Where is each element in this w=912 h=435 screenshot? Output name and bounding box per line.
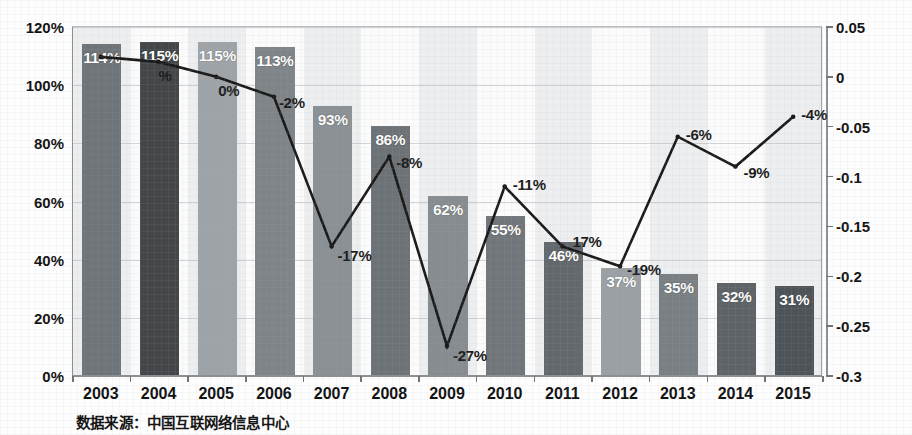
left-axis-tick-label: 0%	[42, 368, 64, 385]
right-axis-tick	[826, 176, 833, 178]
line-value-label-2005: 0%	[218, 82, 239, 99]
line-value-label-2014: -9%	[743, 164, 769, 181]
bar-value-label: 115%	[199, 47, 236, 65]
category-label-2007: 2007	[314, 385, 350, 403]
bar-value-label: 113%	[256, 52, 293, 70]
category-axis-tick	[360, 376, 362, 382]
left-axis-tick-label: 40%	[34, 251, 64, 268]
plot-top-border	[72, 26, 822, 27]
chart-root: 0%20%40%60%80%100%120% 114%115%115%113%9…	[0, 0, 912, 435]
category-axis-line	[72, 375, 822, 377]
bar-2013[interactable]: 35%	[659, 274, 698, 376]
category-label-2012: 2012	[602, 385, 638, 403]
bar-2014[interactable]: 32%	[717, 283, 756, 376]
category-axis-tick	[649, 376, 651, 382]
right-axis-tick-label: 0.05	[836, 19, 865, 36]
left-value-axis: 0%20%40%60%80%100%120%	[0, 0, 64, 435]
right-axis-tick	[826, 325, 833, 327]
category-label-2014: 2014	[718, 385, 754, 403]
bar-2004[interactable]: 115%	[140, 42, 179, 376]
category-label-2004: 2004	[141, 385, 177, 403]
line-value-label-2007: -17%	[338, 247, 372, 264]
left-axis-tick-label: 20%	[34, 309, 64, 326]
category-label-2008: 2008	[372, 385, 408, 403]
category-axis-tick	[707, 376, 709, 382]
source-note: 数据来源：中国互联网络信息中心	[76, 411, 289, 432]
line-value-label-2015: -4%	[801, 106, 827, 123]
category-label-2005: 2005	[198, 385, 234, 403]
bar-value-label: 55%	[491, 221, 521, 239]
bar-2012[interactable]: 37%	[601, 268, 640, 376]
category-axis-tick	[245, 376, 247, 382]
bar-2007[interactable]: 93%	[313, 106, 352, 376]
left-axis-tick-label: 60%	[34, 193, 64, 210]
right-axis-tick-label: -0.2	[836, 268, 862, 285]
line-value-label-2004: %	[159, 67, 172, 84]
bar-value-label: 35%	[664, 279, 694, 297]
category-axis-tick	[130, 376, 132, 382]
right-axis-tick-label: -0.1	[836, 168, 862, 185]
line-value-label-2009: -27%	[453, 347, 487, 364]
bar-value-label: 86%	[375, 131, 405, 149]
category-label-2015: 2015	[775, 385, 811, 403]
bar-value-label: 114%	[83, 49, 120, 67]
category-label-2013: 2013	[660, 385, 696, 403]
right-axis-tick	[826, 26, 833, 28]
right-value-axis: -0.3-0.25-0.2-0.15-0.1-0.0500.05	[836, 0, 912, 435]
category-axis-tick	[822, 376, 824, 382]
category-label-2010: 2010	[487, 385, 523, 403]
category-axis-tick	[72, 376, 74, 382]
right-axis-tick-label: 0	[836, 68, 844, 85]
right-axis-tick	[826, 226, 833, 228]
right-axis-tick	[826, 126, 833, 128]
category-label-2003: 2003	[83, 385, 119, 403]
right-axis-tick-label: -0.25	[836, 318, 870, 335]
right-axis-tick-label: -0.3	[836, 368, 862, 385]
line-value-label-2012: -19%	[627, 261, 661, 278]
line-value-label-2010: -11%	[513, 176, 546, 193]
category-label-2011: 2011	[545, 385, 580, 403]
line-value-label-2011: 17%	[572, 233, 601, 250]
plot-area: 114%115%115%113%93%86%62%55%46%37%35%32%…	[72, 27, 822, 376]
category-axis-tick	[764, 376, 766, 382]
category-axis-tick	[303, 376, 305, 382]
category-label-2009: 2009	[429, 385, 465, 403]
line-value-label-2008: -8%	[396, 154, 422, 171]
bar-2015[interactable]: 31%	[775, 286, 814, 376]
category-label-2006: 2006	[256, 385, 292, 403]
right-axis-tick	[826, 276, 833, 278]
right-axis-tick	[826, 76, 833, 78]
category-axis-tick	[534, 376, 536, 382]
gridline	[73, 85, 821, 86]
left-axis-tick-label: 120%	[26, 19, 64, 36]
category-axis-tick	[591, 376, 593, 382]
left-axis-tick-label: 100%	[26, 77, 64, 94]
bar-2011[interactable]: 46%	[544, 242, 583, 376]
gridline	[73, 143, 821, 144]
bar-value-label: 32%	[722, 288, 752, 306]
category-axis-tick	[187, 376, 189, 382]
line-value-label-2013: -6%	[686, 126, 712, 143]
category-axis-tick	[418, 376, 420, 382]
line-value-label-2006: -2%	[279, 94, 305, 111]
right-axis-line	[826, 27, 828, 376]
right-axis-tick-label: -0.05	[836, 118, 870, 135]
bar-value-label: 31%	[779, 291, 809, 309]
category-axis-tick	[476, 376, 478, 382]
bar-value-label: 115%	[141, 47, 178, 65]
right-axis-tick-label: -0.15	[836, 218, 870, 235]
bar-value-label: 93%	[318, 111, 348, 129]
bar-2003[interactable]: 114%	[82, 44, 121, 376]
bar-value-label: 62%	[433, 201, 463, 219]
right-axis-tick	[826, 375, 833, 377]
left-axis-tick-label: 80%	[34, 135, 64, 152]
gridline	[73, 27, 821, 28]
bar-2010[interactable]: 55%	[486, 216, 525, 376]
